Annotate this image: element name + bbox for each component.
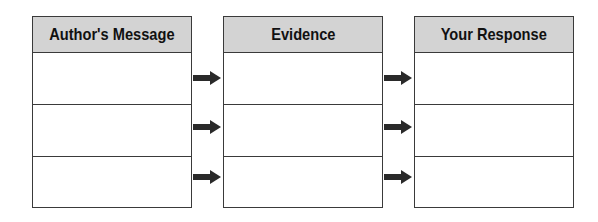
column-header: Author's Message [33,17,191,53]
your-response-cell-3 [415,157,573,210]
column-header-label: Your Response [441,25,547,45]
evidence-cell-1 [224,53,382,105]
evidence-cell-2 [224,105,382,157]
your-response-cell-1 [415,53,573,105]
right-arrow-icon [193,120,221,134]
column-header-label: Author's Message [49,25,174,45]
column-header: Evidence [224,17,382,53]
authors-message-cell-1 [33,53,191,105]
column-your-response: Your Response [414,16,574,208]
column-authors-message: Author's Message [32,16,192,208]
right-arrow-icon [384,71,412,85]
right-arrow-icon [384,170,412,184]
authors-message-cell-3 [33,157,191,210]
right-arrow-icon [384,120,412,134]
column-evidence: Evidence [223,16,383,208]
right-arrow-icon [193,71,221,85]
column-header: Your Response [415,17,573,53]
your-response-cell-2 [415,105,573,157]
evidence-cell-3 [224,157,382,210]
column-header-label: Evidence [271,25,335,45]
authors-message-cell-2 [33,105,191,157]
right-arrow-icon [193,170,221,184]
